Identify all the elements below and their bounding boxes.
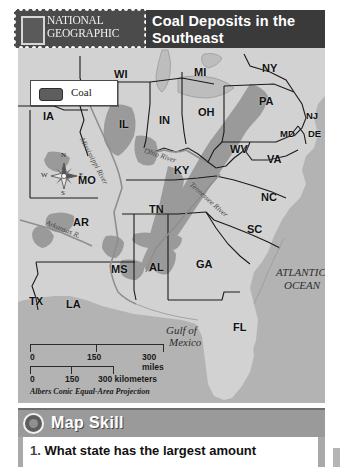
stamp-perforation [65,7,69,11]
state-label-il: IL [119,118,129,130]
state-label-fl: FL [233,321,246,333]
scale-miles-end: 300 miles [142,352,180,372]
ng-brand-line2: GEOGRAPHIC [47,27,119,40]
map-skill-question: 1. What state has the largest amount [30,443,320,459]
state-label-ia: IA [43,110,54,122]
map-title: Coal Deposits in the Southeast [152,13,322,46]
scale-miles-start: 0 [30,352,35,362]
state-label-wv: WV [230,143,248,155]
state-label-sc: SC [247,223,262,235]
stamp-perforation [12,14,16,18]
stamp-perforation [52,7,56,11]
scale-labels-kilometers: 0 150 300 kilometers [30,374,190,386]
compass-west-label: W [41,171,48,179]
stamp-perforation [137,7,141,11]
stamp-perforation [38,7,42,11]
state-label-md: MD [280,128,295,139]
state-label-ga: GA [196,258,213,270]
ng-brand-line1: NATIONAL [47,14,119,27]
state-label-de: DE [308,128,321,139]
stamp-perforation [58,7,62,11]
state-label-ky: KY [174,164,189,176]
scale-labels-miles: 0 150 300 miles [30,352,180,364]
compass-north-label: N [61,151,66,159]
page-edge-marker [333,448,340,467]
stamp-perforation [12,27,16,31]
question-text: What state has the largest amount [44,443,256,458]
question-number: 1. [30,443,41,458]
state-label-nj: NJ [306,110,318,121]
compass-rose: N S W E [40,152,88,200]
state-label-al: AL [149,261,164,273]
stamp-perforation [12,40,16,44]
state-label-mi: MI [194,66,206,78]
page-root: NATIONAL GEOGRAPHIC Coal Deposits in the… [0,0,340,467]
stamp-perforation [71,7,75,11]
scale-miles-mid: 150 [87,352,101,362]
stamp-perforation [19,7,23,11]
stamp-perforation [111,7,115,11]
stamp-perforation [85,7,89,11]
stamp-perforation [104,7,108,11]
stamp-perforation [45,7,49,11]
map-scale: 0 150 300 miles 0 150 300 kilometers Alb… [30,344,190,396]
scale-km-start: 0 [30,374,35,384]
state-label-tn: TN [149,203,164,215]
map-skill-title: Map Skill [51,414,124,432]
national-geographic-logo: NATIONAL GEOGRAPHIC [14,9,146,48]
map-projection-label: Albers Conic Equal-Area Projection [30,387,190,396]
stamp-perforation [12,33,16,37]
legend-coal-label: Coal [71,86,92,98]
water-label-atlantic: ATLANTIC [276,266,325,279]
state-label-wi: WI [114,68,127,80]
stamp-perforation [131,7,135,11]
compass-east-label: E [79,171,83,179]
legend-coal-swatch-icon [39,88,63,101]
stamp-perforation [78,7,82,11]
scale-bar-miles [30,344,164,352]
state-label-ar: AR [73,216,89,228]
state-label-tx: TX [29,295,43,307]
stamp-perforation [124,7,128,11]
stamp-perforation [118,7,122,11]
stamp-perforation [32,7,36,11]
state-label-ny: NY [262,62,277,74]
ng-logo-rectangle-icon [21,16,45,45]
state-label-ms: MS [111,263,128,275]
scale-km-mid: 150 [65,374,79,384]
scale-km-end: 300 kilometers [98,374,157,384]
ng-logo-text: NATIONAL GEOGRAPHIC [47,14,119,40]
state-label-oh: OH [198,106,215,118]
map-canvas[interactable]: Coal N S W E WIMINYIAILIN [18,48,325,403]
map-skill-bullet-icon [23,413,44,434]
stamp-perforation [91,7,95,11]
map-skill-bar: Map Skill [18,408,325,437]
stamp-perforation [12,46,16,50]
state-label-pa: PA [259,95,273,107]
state-label-in: IN [159,114,170,126]
question-left-rule [18,437,23,467]
scale-bar-kilometers [30,366,114,374]
state-label-la: LA [66,298,81,310]
stamp-perforation [12,20,16,24]
stamp-perforation [12,7,16,11]
stamp-perforation [25,7,29,11]
stamp-perforation [98,7,102,11]
state-label-nc: NC [261,191,277,203]
water-label-ocean: OCEAN [284,279,320,292]
map-legend: Coal [30,80,118,106]
state-label-va: VA [267,153,281,165]
compass-south-label: S [61,189,65,197]
